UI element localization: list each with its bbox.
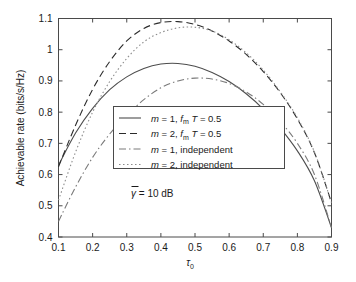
x-axis-title-subscript: 0 xyxy=(190,263,194,270)
y-tick-label: 0.9 xyxy=(39,75,53,86)
annotation-snr: γ = 10 dB xyxy=(131,187,174,200)
legend-label-4: m = 2, independent xyxy=(151,159,233,170)
chart-figure: 0.10.20.30.40.50.60.70.80.9 0.40.50.60.7… xyxy=(0,0,356,282)
y-tick-label: 0.4 xyxy=(39,232,53,243)
y-tick-label: 0.5 xyxy=(39,200,53,211)
x-tick-label: 0.7 xyxy=(256,242,270,253)
annotation-snr-text: γ = 10 dB xyxy=(131,188,174,199)
y-tick-label: 0.6 xyxy=(39,169,53,180)
legend-label-3: m = 1, independent xyxy=(151,144,233,155)
x-tick-label: 0.2 xyxy=(86,242,100,253)
x-axis-tick-labels: 0.10.20.30.40.50.60.70.80.9 xyxy=(52,242,339,253)
y-tick-label: 0.8 xyxy=(39,107,53,118)
x-tick-label: 0.6 xyxy=(222,242,236,253)
x-tick-label: 0.1 xyxy=(52,242,66,253)
x-tick-label: 0.3 xyxy=(120,242,134,253)
legend: m = 1, fm T = 0.5m = 2, fm T = 0.5m = 1,… xyxy=(114,107,285,171)
x-tick-label: 0.9 xyxy=(325,242,339,253)
y-tick-label: 1 xyxy=(47,44,53,55)
achievable-rate-line-chart: 0.10.20.30.40.50.60.70.80.9 0.40.50.60.7… xyxy=(0,0,356,282)
x-tick-label: 0.5 xyxy=(188,242,202,253)
x-tick-label: 0.4 xyxy=(154,242,168,253)
y-tick-label: 0.7 xyxy=(39,138,53,149)
y-axis-title: Achievable rate (bits/s/Hz) xyxy=(15,70,26,187)
x-tick-label: 0.8 xyxy=(290,242,304,253)
y-tick-label: 1.1 xyxy=(39,13,53,24)
